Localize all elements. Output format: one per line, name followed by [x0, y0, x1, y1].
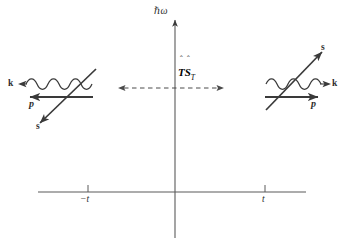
- physics-diagram-figure: ℏω −t t ˆ ˆ TST k p s k p s: [0, 0, 340, 245]
- left-spin-arrow: [40, 69, 96, 123]
- left-spin-label: s: [36, 122, 40, 132]
- vertical-axis-label: ℏω: [154, 6, 168, 16]
- left-wavevector-label: k: [8, 79, 13, 89]
- time-reversal-operator-label: ˆ ˆ TST: [178, 62, 195, 82]
- hat-accent-t-icon: ˆ: [180, 56, 183, 64]
- right-momentum-label: p: [311, 99, 316, 109]
- hat-accent-s-icon: ˆ: [187, 56, 190, 64]
- left-wavy-photon-line: [26, 79, 92, 90]
- left-diagram-group: [18, 69, 96, 123]
- left-momentum-label: p: [29, 99, 34, 109]
- right-wavevector-label: k: [332, 79, 337, 89]
- axis-group: [38, 20, 306, 238]
- tick-label-positive-t: t: [262, 195, 265, 205]
- right-diagram-group: [265, 52, 331, 110]
- operator-symbols: TS: [178, 66, 191, 78]
- tick-label-negative-t: −t: [80, 195, 89, 205]
- diagram-canvas: [0, 0, 340, 245]
- time-reversal-dashed-arrow: [118, 85, 224, 91]
- right-spin-label: s: [321, 43, 325, 53]
- operator-subscript: T: [191, 73, 195, 82]
